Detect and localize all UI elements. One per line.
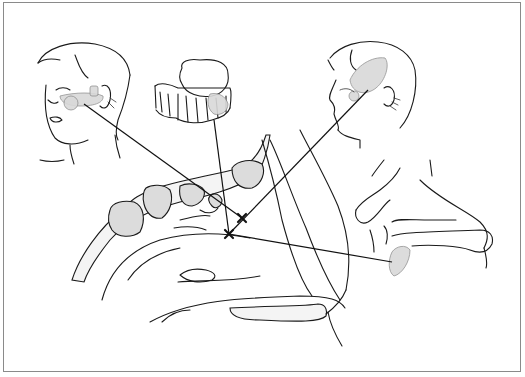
ethmoid-sinus-2 (180, 184, 205, 206)
temporal-pain-zone (350, 58, 387, 93)
leader-nasopharynx (229, 234, 392, 262)
front-face-drawing (38, 43, 130, 164)
frontal-sinus (109, 201, 144, 236)
cheek-pain-spot (64, 96, 78, 110)
anatomical-illustration (0, 0, 525, 377)
maxillary-teeth-drawing (155, 59, 231, 122)
nasopharynx-pain-zone (389, 246, 410, 276)
molar-pain-zone (208, 93, 228, 114)
side-head-drawing (328, 42, 432, 176)
eye-pain-spot (349, 91, 359, 101)
sagittal-section-drawing (72, 130, 349, 346)
